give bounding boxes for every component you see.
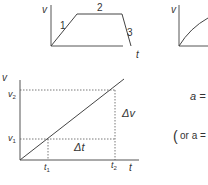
formula-line-1: a = — [190, 90, 206, 102]
segment-3-label: 3 — [127, 27, 133, 38]
delta-v-label: Δv — [121, 107, 136, 119]
v2-label: v2 — [8, 89, 17, 100]
formula: a = ( or a = — [173, 90, 206, 144]
y-axis-label: v — [42, 4, 48, 15]
segment-1-label: 1 — [60, 20, 66, 31]
graph-linear: v t v2 v1 t1 t2 Δv Δt — [2, 72, 139, 173]
y-axis-label: v — [2, 72, 8, 83]
x-axis-label: t — [136, 49, 140, 60]
segment-2-label: 2 — [97, 2, 103, 13]
formula-line-2: or a = — [180, 130, 206, 141]
x-axis-label: t — [129, 162, 133, 173]
t1-label: t1 — [44, 162, 51, 173]
graph-trapezoid: v t 1 2 3 — [42, 2, 140, 60]
velocity-line — [20, 79, 124, 160]
delta-t-label: Δt — [73, 141, 85, 153]
v1-label: v1 — [8, 133, 17, 144]
graph-curve: v — [171, 4, 208, 46]
velocity-curve — [179, 18, 208, 46]
formula-paren: ( — [173, 128, 178, 144]
t2-label: t2 — [111, 160, 118, 171]
kinematics-diagrams: v t 1 2 3 v v t v2 v1 t1 t2 Δv Δt a = ( … — [0, 0, 208, 185]
y-axis-label: v — [171, 4, 177, 15]
